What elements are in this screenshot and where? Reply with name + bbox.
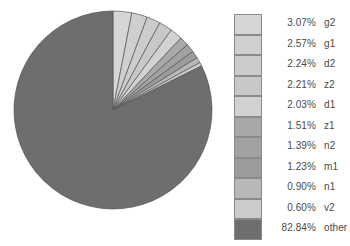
legend-swatch-v2 [234,199,262,220]
legend-swatch-d1 [234,96,262,117]
legend-row[interactable]: 0.90%n1 [232,178,350,199]
legend-label-n1: n1 [324,181,335,192]
legend-swatch-d2 [234,55,262,76]
legend-percent-g2: 3.07% [266,17,316,28]
legend-label-m1: m1 [324,161,338,172]
legend-row[interactable]: 3.07%g2 [232,14,350,35]
legend-row[interactable]: 1.23%m1 [232,158,350,179]
legend-swatch-n1 [234,178,262,199]
pie-plot-area [0,0,226,246]
legend-label-g2: g2 [324,17,335,28]
legend-label-d2: d2 [324,58,335,69]
legend-label-d1: d1 [324,99,335,110]
legend-swatch-n2 [234,137,262,158]
legend-percent-d2: 2.24% [266,58,316,69]
legend-percent-m1: 1.23% [266,161,316,172]
legend-swatch-z1 [234,117,262,138]
legend-row[interactable]: 2.03%d1 [232,96,350,117]
legend-percent-other: 82.84% [266,222,316,233]
legend-label-n2: n2 [324,140,335,151]
legend-percent-n1: 0.90% [266,181,316,192]
legend-swatch-other [234,219,262,240]
legend-row[interactable]: 2.24%d2 [232,55,350,76]
chart-legend: 3.07%g22.57%g12.24%d22.21%z22.03%d11.51%… [232,14,350,240]
legend-row[interactable]: 0.60%v2 [232,199,350,220]
legend-row[interactable]: 1.51%z1 [232,117,350,138]
legend-swatch-g2 [234,14,262,35]
legend-label-v2: v2 [324,202,335,213]
legend-percent-d1: 2.03% [266,99,316,110]
legend-label-g1: g1 [324,38,335,49]
legend-row[interactable]: 82.84%other [232,219,350,240]
legend-label-z2: z2 [324,79,335,90]
legend-swatch-m1 [234,158,262,179]
legend-swatch-z2 [234,76,262,97]
legend-percent-g1: 2.57% [266,38,316,49]
legend-row[interactable]: 1.39%n2 [232,137,350,158]
legend-row[interactable]: 2.21%z2 [232,76,350,97]
legend-label-z1: z1 [324,120,335,131]
legend-swatch-g1 [234,35,262,56]
pie-chart-figure: 3.07%g22.57%g12.24%d22.21%z22.03%d11.51%… [0,0,350,246]
legend-percent-z2: 2.21% [266,79,316,90]
legend-percent-n2: 1.39% [266,140,316,151]
legend-label-other: other [324,222,347,233]
legend-percent-z1: 1.51% [266,120,316,131]
pie-svg [0,0,226,246]
legend-percent-v2: 0.60% [266,202,316,213]
legend-row[interactable]: 2.57%g1 [232,35,350,56]
